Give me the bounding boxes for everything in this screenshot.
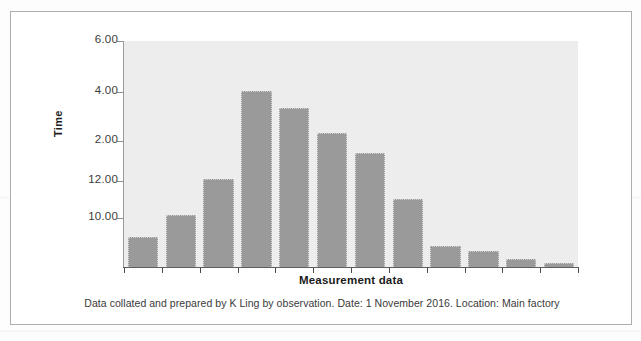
bar — [166, 215, 196, 267]
bar — [506, 259, 536, 267]
bar — [317, 133, 347, 267]
y-axis-tick-label: 12.00 — [88, 173, 118, 185]
x-axis-tick-mark — [427, 268, 428, 273]
x-axis-tick-mark — [238, 268, 239, 273]
y-axis-tick-label: 6.00 — [95, 33, 118, 45]
x-axis-tick-mark — [502, 268, 503, 273]
figure-frame: 6.004.002.0012.0010.00 Time Measurement … — [10, 11, 632, 325]
y-axis-tick-label: 2.00 — [95, 133, 118, 145]
x-axis-tick-mark — [540, 268, 541, 273]
bar — [203, 179, 233, 267]
bar — [393, 199, 423, 267]
bar — [468, 251, 498, 267]
chart-caption: Data collated and prepared by K Ling by … — [31, 297, 613, 309]
y-axis-tick-label: 10.00 — [88, 210, 118, 222]
scan-bleed-artifact — [0, 330, 641, 332]
y-axis-tick-label: 4.00 — [95, 84, 118, 96]
y-axis-line — [123, 41, 124, 268]
y-axis-title: Time — [52, 123, 64, 137]
bar — [279, 108, 309, 267]
x-axis-tick-mark — [351, 268, 352, 273]
x-axis-tick-mark — [389, 268, 390, 273]
bar — [355, 153, 385, 267]
x-axis-tick-mark — [200, 268, 201, 273]
x-axis-tick-mark — [465, 268, 466, 273]
bar — [430, 246, 460, 267]
scanned-page: 6.004.002.0012.0010.00 Time Measurement … — [0, 0, 641, 341]
bar-chart: 6.004.002.0012.0010.00 Time Measurement … — [11, 12, 633, 326]
x-axis-tick-mark — [275, 268, 276, 273]
x-axis-tick-mark — [313, 268, 314, 273]
x-axis-tick-mark — [124, 268, 125, 273]
bar — [128, 237, 158, 267]
x-axis-title: Measurement data — [124, 274, 578, 286]
bar — [241, 91, 271, 267]
x-axis-tick-mark — [578, 268, 579, 273]
x-axis-tick-mark — [162, 268, 163, 273]
bar — [544, 263, 574, 267]
